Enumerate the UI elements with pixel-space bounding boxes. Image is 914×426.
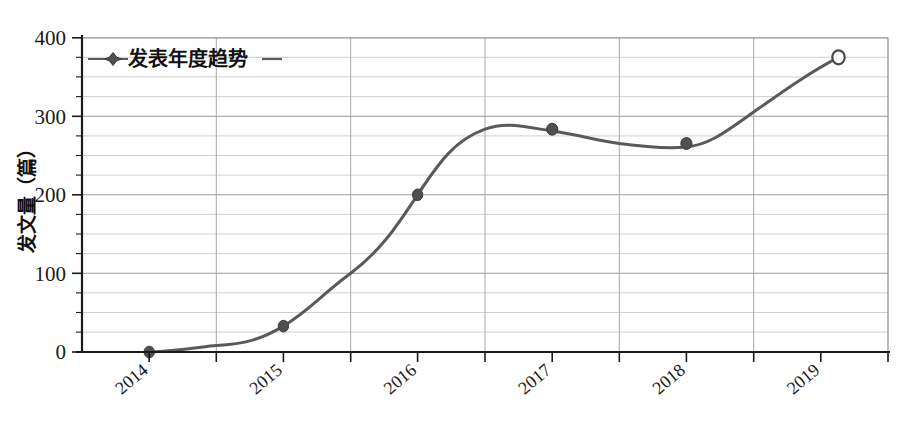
data-point-2017 [547, 123, 558, 135]
chart-container: 400 300 200 100 0 发文量（篇） 2014 2015 2016 … [0, 0, 914, 426]
data-point-2019 [832, 50, 844, 64]
y-tick-label-100: 100 [35, 262, 67, 286]
data-point-2016 [412, 189, 422, 201]
y-tick-label-400: 400 [35, 26, 67, 50]
y-tick-label-300: 300 [35, 105, 67, 129]
line-chart: 400 300 200 100 0 发文量（篇） 2014 2015 2016 … [0, 0, 914, 426]
data-point-2015 [278, 320, 288, 332]
y-tick-label-0: 0 [56, 340, 67, 364]
data-point-2018 [681, 138, 692, 150]
y-axis-title: 发文量（篇） [16, 139, 38, 254]
legend-label-publication-trend: 发表年度趋势 [127, 47, 248, 71]
y-tick-label-200: 200 [35, 183, 67, 207]
